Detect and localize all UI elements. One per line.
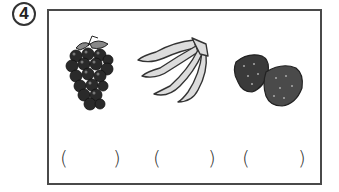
question-number-badge: 4 bbox=[12, 2, 36, 26]
answer-grapes-open: ( bbox=[60, 146, 68, 170]
answer-strawberries-open: ( bbox=[242, 146, 250, 170]
answer-strawberries-close: ) bbox=[298, 146, 306, 170]
answer-grapes-close: ) bbox=[113, 146, 121, 170]
grapes-icon bbox=[62, 34, 118, 114]
bananas-icon bbox=[134, 34, 214, 106]
answer-bananas-close: ) bbox=[208, 146, 216, 170]
question-number: 4 bbox=[19, 4, 28, 23]
strawberries-icon bbox=[230, 52, 310, 108]
answer-bananas-open: ( bbox=[153, 146, 161, 170]
